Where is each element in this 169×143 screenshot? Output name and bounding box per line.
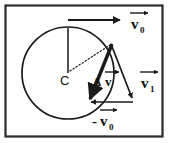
- label-delta-v-symbol: v: [105, 74, 112, 89]
- label-negative-v0-prefix: -: [92, 113, 97, 129]
- label-negative-v0-subscript: 0: [109, 122, 114, 132]
- label-v0-subscript: 0: [140, 25, 145, 35]
- label-delta-v-prefix: Δ: [93, 74, 101, 89]
- label-v1-subscript: 1: [150, 84, 155, 94]
- label-v0-symbol: v: [131, 16, 139, 32]
- diagram-canvas: v 0 v 1 - v 0 Δ v C: [0, 0, 169, 143]
- label-v1-symbol: v: [141, 75, 149, 91]
- label-negative-v0-symbol: v: [100, 113, 108, 129]
- vector-diagram-figure: v 0 v 1 - v 0 Δ v C: [0, 0, 169, 143]
- label-circle-center: C: [60, 73, 69, 88]
